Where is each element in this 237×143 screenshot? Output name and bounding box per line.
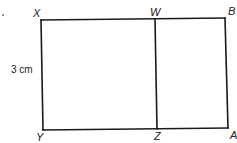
label-B: B bbox=[228, 5, 235, 17]
label-X: X bbox=[32, 7, 41, 19]
edge-WZ bbox=[155, 19, 157, 129]
label-W: W bbox=[150, 6, 162, 18]
edge-YX bbox=[41, 20, 43, 130]
label-Z: Z bbox=[153, 130, 162, 142]
rectangle-diagram: X W B Y Z A 3 cm bbox=[0, 0, 237, 143]
edge-BA bbox=[225, 18, 228, 128]
question-marker-dot bbox=[2, 14, 4, 16]
dimension-label-XY: 3 cm bbox=[11, 64, 33, 75]
label-Y: Y bbox=[36, 131, 44, 143]
edge-AY bbox=[43, 128, 228, 130]
label-A: A bbox=[229, 129, 237, 141]
edge-XB bbox=[41, 18, 225, 20]
